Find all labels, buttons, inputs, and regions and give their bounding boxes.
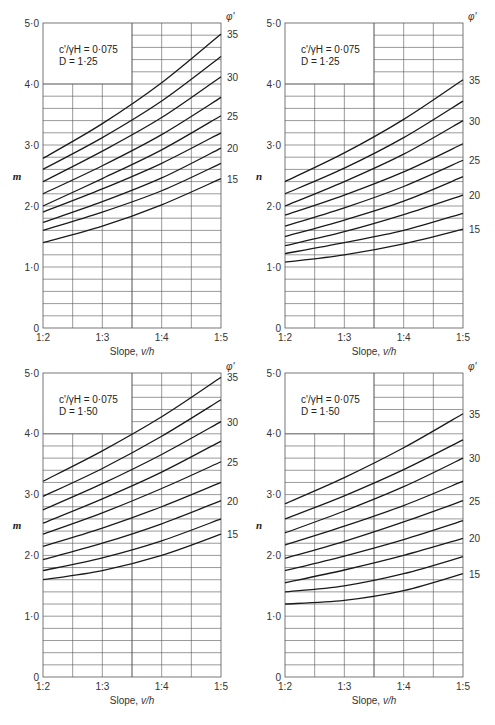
y-tick-label: 5·0 — [267, 18, 282, 29]
chart-annotation: c'/γH = 0·075 — [59, 394, 118, 405]
y-tick-label: 1·0 — [25, 262, 40, 273]
x-tick-label: 1:3 — [95, 681, 109, 692]
y-tick-label: 2·0 — [25, 550, 40, 561]
curve-label: 30 — [469, 453, 481, 464]
x-tick-label: 1:2 — [278, 332, 292, 343]
stability-coefficient-charts: 01·02·03·04·05·0m1:21:31:41:5Slope, v/hc… — [0, 0, 495, 725]
x-tick-label: 1:3 — [95, 332, 109, 343]
y-tick-label: 4·0 — [25, 428, 40, 439]
curve-label: 20 — [469, 190, 481, 201]
x-tick-label: 1:4 — [155, 332, 169, 343]
phi-legend-title: φ' — [468, 361, 478, 372]
x-tick-label: 1:5 — [214, 681, 228, 692]
y-axis-label: n — [256, 170, 262, 182]
curve-label: 15 — [469, 569, 481, 580]
y-tick-label: 1·0 — [267, 262, 282, 273]
curve-label: 35 — [469, 75, 481, 86]
curve-label: 35 — [469, 409, 481, 420]
curve-label: 30 — [469, 116, 481, 127]
y-tick-label: 3·0 — [267, 140, 282, 151]
chart-annotation: D = 1·25 — [59, 56, 98, 67]
y-tick-label: 4·0 — [267, 79, 282, 90]
curve-label: 25 — [227, 111, 239, 122]
x-tick-label: 1:3 — [337, 332, 351, 343]
x-tick-label: 1:2 — [36, 681, 50, 692]
x-tick-label: 1:5 — [214, 332, 228, 343]
y-tick-label: 5·0 — [25, 368, 40, 379]
chart-panel-bottom-right: 01·02·03·04·05·0n1:21:31:41:5Slope, v/hc… — [256, 361, 481, 706]
y-tick-label: 4·0 — [25, 79, 40, 90]
y-tick-label: 2·0 — [267, 550, 282, 561]
curve-label: 30 — [227, 72, 239, 83]
chart-panel-top-left: 01·02·03·04·05·0m1:21:31:41:5Slope, v/hc… — [13, 11, 239, 357]
x-tick-label: 1:4 — [155, 681, 169, 692]
curve-label: 25 — [469, 496, 481, 507]
curve-label: 20 — [469, 533, 481, 544]
x-tick-label: 1:3 — [337, 681, 351, 692]
chart-annotation: c'/γH = 0·075 — [301, 394, 360, 405]
y-tick-label: 5·0 — [267, 368, 282, 379]
curve-label: 15 — [227, 174, 239, 185]
phi-legend-title: φ' — [226, 11, 236, 22]
y-tick-label: 2·0 — [25, 201, 40, 212]
y-tick-label: 1·0 — [267, 611, 282, 622]
phi-legend-title: φ' — [226, 361, 236, 372]
x-axis-label: Slope, v/h — [110, 346, 155, 357]
x-tick-label: 1:4 — [397, 332, 411, 343]
curve-label: 15 — [469, 224, 481, 235]
y-tick-label: 4·0 — [267, 428, 282, 439]
chart-annotation: D = 1·50 — [301, 406, 340, 417]
y-axis-label: m — [13, 519, 22, 531]
curve-label: 15 — [227, 529, 239, 540]
y-tick-label: 3·0 — [25, 140, 40, 151]
curve-label: 30 — [227, 417, 239, 428]
chart-panel-top-right: 01·02·03·04·05·0n1:21:31:41:5Slope, v/hc… — [256, 11, 481, 357]
x-tick-label: 1:5 — [456, 332, 470, 343]
chart-annotation: c'/γH = 0·075 — [59, 44, 118, 55]
chart-annotation: D = 1·50 — [59, 406, 98, 417]
curve-label: 35 — [227, 372, 239, 383]
curve-label: 25 — [227, 457, 239, 468]
chart-annotation: c'/γH = 0·075 — [301, 44, 360, 55]
x-tick-label: 1:5 — [456, 681, 470, 692]
y-tick-label: 2·0 — [267, 201, 282, 212]
y-tick-label: 3·0 — [25, 489, 40, 500]
x-axis-label: Slope, v/h — [352, 695, 397, 706]
x-tick-label: 1:2 — [278, 681, 292, 692]
x-tick-label: 1:2 — [36, 332, 50, 343]
y-tick-label: 5·0 — [25, 18, 40, 29]
y-axis-label: n — [256, 519, 262, 531]
x-axis-label: Slope, v/h — [352, 346, 397, 357]
chart-annotation: D = 1·25 — [301, 56, 340, 67]
curve-label: 20 — [227, 496, 239, 507]
x-axis-label: Slope, v/h — [110, 695, 155, 706]
phi-legend-title: φ' — [468, 11, 478, 22]
chart-panel-bottom-left: 01·02·03·04·05·0m1:21:31:41:5Slope, v/hc… — [13, 361, 239, 706]
y-axis-label: m — [13, 170, 22, 182]
curve-label: 35 — [227, 29, 239, 40]
curve-label: 25 — [469, 155, 481, 166]
x-tick-label: 1:4 — [397, 681, 411, 692]
y-tick-label: 3·0 — [267, 489, 282, 500]
y-tick-label: 1·0 — [25, 611, 40, 622]
curve-label: 20 — [227, 143, 239, 154]
